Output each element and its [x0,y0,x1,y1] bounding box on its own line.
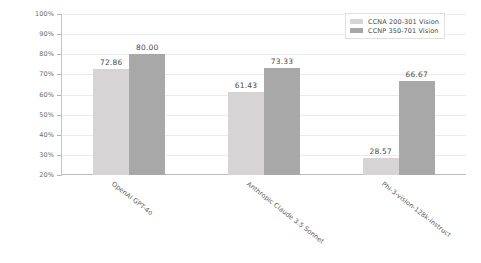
bar-value-label: 61.43 [235,81,257,90]
bar-chart-figure: Accuracy (%) 20%30%40%50%60%70%80%90%100… [0,0,481,263]
x-axis-tick-label: Phi-3-vision-128k-instruct [380,180,452,239]
y-axis-tick-label: 60% [39,91,54,99]
x-axis-tick-label: Anthropic Claude 3.5 Sonnet [245,180,326,245]
legend-item: CCNP 350-701 Vision [350,26,439,35]
bar-value-label: 73.33 [271,57,293,66]
y-axis-tick-mark [57,14,61,15]
y-axis-tick-mark [57,175,61,176]
y-axis-tick-label: 70% [39,70,54,78]
y-axis-tick-mark [57,115,61,116]
y-axis-tick-mark [57,135,61,136]
bar [228,92,264,175]
legend-item: CCNA 200-301 Vision [350,17,439,26]
bar-value-label: 80.00 [136,43,158,52]
y-axis-tick-label: 40% [39,131,54,139]
y-axis-tick-mark [57,74,61,75]
bar-value-label: 28.57 [369,147,391,156]
y-axis-tick-label: 90% [39,30,54,38]
y-axis-tick-label: 20% [39,171,54,179]
x-axis-tick-label: OpenAI GPT-4o [110,180,154,217]
y-axis-tick-mark [57,155,61,156]
gridline [62,54,466,55]
legend-label: CCNP 350-701 Vision [368,27,438,35]
bar [264,68,300,175]
y-axis-tick-mark [57,34,61,35]
legend-label: CCNA 200-301 Vision [368,18,439,26]
y-axis-tick-label: 50% [39,111,54,119]
bar [129,54,165,175]
y-axis-tick-label: 30% [39,151,54,159]
legend-swatch-ccna-icon [350,19,363,24]
y-axis-tick-label: 80% [39,50,54,58]
bar-value-label: 72.86 [100,58,122,67]
y-axis-tick-mark [57,95,61,96]
chart-legend: CCNA 200-301 Vision CCNP 350-701 Vision [345,13,445,39]
bar [93,69,129,175]
bar [363,158,399,175]
bar-value-label: 66.67 [405,70,427,79]
y-axis-tick-mark [57,54,61,55]
y-axis-tick-label: 100% [35,10,54,18]
bar [399,81,435,175]
legend-swatch-ccnp-icon [350,28,363,33]
